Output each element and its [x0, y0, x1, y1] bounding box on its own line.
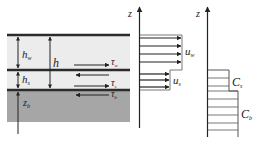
label-cb: Cb [241, 107, 252, 121]
label-us: us [173, 74, 182, 87]
velocity-axis-label: z [127, 8, 132, 19]
label-uw: uw [185, 45, 195, 58]
layer-panel: hw hs h zb τw τs τb [7, 35, 130, 134]
concentration-axis-label: z [195, 8, 200, 19]
two-layer-flow-diagram: hw hs h zb τw τs τb z uw us z [0, 0, 261, 151]
label-h: h [53, 56, 59, 70]
label-cs: Cs [232, 75, 243, 89]
velocity-profile: z uw us [127, 7, 195, 128]
concentration-profile: z Cs Cb [195, 7, 252, 137]
